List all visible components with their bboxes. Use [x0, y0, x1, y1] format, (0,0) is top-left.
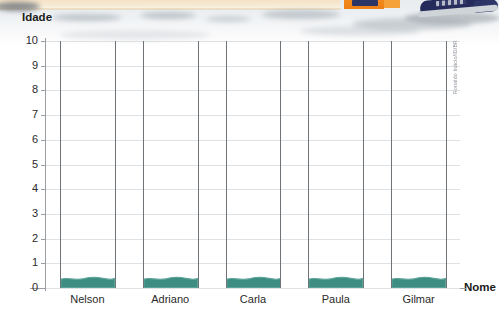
x-axis-title: Nome: [464, 281, 496, 293]
bar: [227, 275, 281, 288]
sneaker-icon: [414, 0, 498, 20]
y-tick-label: 3: [8, 207, 38, 219]
y-tick-mark: [41, 66, 46, 67]
y-tick-mark: [41, 165, 46, 166]
y-tick-mark: [41, 263, 46, 264]
y-tick-label: 5: [8, 158, 38, 170]
photo-shadow-blob: [60, 30, 210, 40]
y-tick-mark: [41, 140, 46, 141]
orange-marker-small: [384, 0, 400, 8]
photo-shadow-blob: [262, 10, 340, 19]
gridline: [46, 263, 460, 264]
gridline: [46, 140, 460, 141]
column-separator: [60, 41, 61, 288]
gridline: [46, 115, 460, 116]
gridline: [46, 214, 460, 215]
bar: [309, 275, 363, 288]
gridline: [46, 288, 460, 289]
chart-figure: Idade Nome 109876543210 NelsonAdrianoCar…: [0, 0, 499, 319]
y-tick-label: 8: [8, 83, 38, 95]
y-tick-label: 1: [8, 256, 38, 268]
y-axis-title: Idade: [22, 11, 52, 23]
column-separator: [391, 41, 392, 288]
y-tick-mark: [41, 41, 46, 42]
photo-shadow-blob: [206, 16, 250, 22]
photo-shadow-blob: [52, 14, 122, 21]
photo-backdrop: [0, 0, 499, 46]
y-tick-label: 6: [8, 133, 38, 145]
y-tick-mark: [41, 189, 46, 190]
gridline: [46, 66, 460, 67]
bar: [144, 275, 198, 288]
gridline: [46, 90, 460, 91]
column-separator: [198, 41, 199, 288]
navy-chip: [352, 0, 378, 6]
image-credit: Ronaldo Inácio/ID/BR: [452, 40, 458, 94]
y-tick-label: 9: [8, 59, 38, 71]
bar: [61, 275, 115, 288]
y-tick-mark: [41, 115, 46, 116]
column-separator: [280, 41, 281, 288]
x-tick-label: Gilmar: [369, 293, 469, 305]
gridline: [46, 165, 460, 166]
column-separator: [115, 41, 116, 288]
y-tick-mark: [41, 239, 46, 240]
y-tick-mark: [41, 288, 46, 289]
column-separator: [308, 41, 309, 288]
y-tick-label: 2: [8, 232, 38, 244]
y-tick-label: 0: [8, 281, 38, 293]
column-separator: [363, 41, 364, 288]
column-separator: [226, 41, 227, 288]
column-separator: [446, 41, 447, 288]
gridline: [46, 41, 460, 42]
y-tick-label: 7: [8, 108, 38, 120]
y-tick-label: 4: [8, 182, 38, 194]
plot-area: [46, 41, 460, 288]
column-separator: [143, 41, 144, 288]
photo-shadow-blob: [140, 12, 196, 19]
gridline: [46, 239, 460, 240]
y-tick-mark: [41, 90, 46, 91]
gridline: [46, 189, 460, 190]
bar: [392, 275, 446, 288]
y-tick-label: 10: [8, 34, 38, 46]
y-tick-mark: [41, 214, 46, 215]
